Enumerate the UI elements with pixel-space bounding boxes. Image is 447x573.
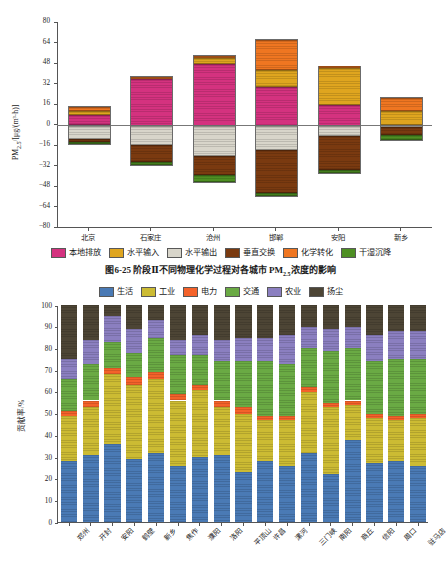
bottom-bar [170,305,186,522]
bottom-x-tick [352,523,353,526]
bot-legend-item: 扬尘 [309,287,343,297]
halftone-texture [192,390,208,457]
top-bar-negative [318,125,361,174]
top-legend-swatch [225,248,240,258]
bottom-x-tick [309,523,310,526]
bottom-y-tick [55,436,58,437]
top-y-tick-label: 80 [22,18,50,25]
top-y-tick-label: 16 [22,100,50,107]
halftone-texture [148,338,164,373]
bottom-x-tick-label: 漯河 [294,528,309,543]
top-legend-label: 干湿沉降 [359,249,391,257]
top-bar-segment [194,56,235,58]
bottom-bar [61,305,77,522]
halftone-texture [214,361,230,400]
top-bar-segment [69,107,110,110]
bottom-x-tick [418,523,419,526]
halftone-texture [192,335,208,355]
halftone-texture [131,127,172,145]
bottom-x-tick-label: 安阳 [120,528,135,543]
top-y-axis-label-unit: /[μg/(m³·h)] [11,105,20,142]
bottom-bar-segment [214,361,230,400]
bottom-bar-segment [345,440,361,522]
halftone-texture [148,305,164,320]
halftone-texture [69,108,110,109]
bottom-x-tick [69,523,70,526]
bottom-y-tick [55,392,58,393]
halftone-texture [257,305,273,338]
halftone-texture [69,112,110,114]
top-bar-positive [318,66,361,126]
halftone-texture [83,455,99,522]
halftone-texture [410,414,426,418]
bottom-bar-segment [148,305,164,320]
bottom-bar-segment [170,401,186,466]
top-bar-segment [319,66,360,68]
top-y-tick [54,165,58,166]
top-plot-area [57,22,432,227]
bottom-bar-segment [257,305,273,338]
halftone-texture [194,176,235,180]
bot-legend-swatch [99,287,114,297]
top-legend-item: 垂直交换 [225,248,275,258]
bottom-bar-segment [214,305,230,340]
bottom-bar-segment [279,335,295,363]
halftone-texture [301,453,317,522]
top-y-tick [54,83,58,84]
bottom-y-tick-label: 40 [26,433,52,440]
bottom-x-tick [90,523,91,526]
bottom-bar-segment [257,416,273,420]
bottom-bar-segment [192,305,208,335]
bottom-bar-segment [301,387,317,391]
halftone-texture [235,338,251,362]
bottom-bar-segment [257,420,273,461]
bottom-bar-segment [257,361,273,415]
bottom-bar-segment [301,327,317,349]
top-y-tick [54,186,58,187]
bottom-bar-segment [257,461,273,522]
halftone-texture [235,361,251,407]
bottom-bar-segment [170,394,186,401]
bottom-y-tick-label: 60 [26,389,52,396]
top-bar-segment [256,193,297,196]
bottom-x-tick-label: 洛阳 [229,528,244,543]
halftone-texture [131,80,172,124]
halftone-texture [83,401,99,408]
halftone-texture [170,394,186,401]
bottom-y-tick [55,523,58,524]
top-y-axis-label-sub: 2.5 [16,142,22,150]
halftone-texture [345,405,361,440]
bot-legend-swatch [225,287,240,297]
figure-caption-tail: 浓度的影响 [291,265,336,275]
halftone-texture [61,416,77,462]
bottom-bar-segment [366,463,382,522]
halftone-texture [104,305,120,316]
bottom-bar-segment [126,385,142,459]
halftone-texture [345,401,361,405]
bottom-y-tick [55,501,58,502]
bottom-bar-segment [83,407,99,455]
bottom-bar [323,305,339,522]
bottom-y-tick-label: 70 [26,368,52,375]
halftone-texture [366,335,382,361]
bottom-bar-segment [148,320,164,337]
bot-legend-swatch [183,287,198,297]
bottom-bar [257,305,273,522]
bottom-bar-segment [170,355,186,394]
top-bar-segment [319,170,360,173]
halftone-texture [279,364,295,416]
top-x-tick [338,227,339,231]
top-legend-item: 本地排放 [51,248,101,258]
halftone-texture [410,466,426,522]
halftone-texture [148,372,164,379]
bottom-x-tick-label: 周口 [403,528,418,543]
halftone-texture [323,305,339,329]
halftone-texture [381,128,422,134]
top-bar-segment [131,162,172,165]
halftone-texture [235,407,251,414]
top-bar-segment [194,156,235,175]
top-bar-segment [381,127,422,135]
bottom-bar-segment [323,329,339,351]
bottom-bar-segment [366,335,382,361]
bottom-y-axis-label-unit: /% [17,400,26,408]
